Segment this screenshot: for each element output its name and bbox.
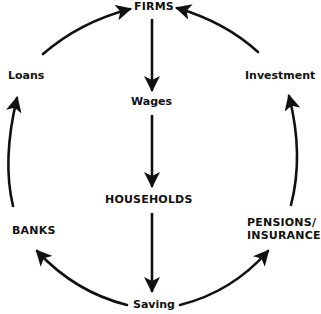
flow-label-loans: Loans — [8, 70, 44, 83]
arrow-pensions-side-to-investment — [289, 96, 297, 205]
arrow-saving-to-banks — [37, 251, 127, 305]
arrow-loans-to-firms — [43, 9, 130, 54]
node-pensions-line2: INSURANCE — [247, 230, 321, 243]
flow-label-investment: Investment — [245, 70, 315, 83]
node-firms: FIRMS — [134, 1, 174, 14]
node-households: HOUSEHOLDS — [105, 194, 193, 207]
node-pensions-insurance: PENSIONS/ INSURANCE — [247, 217, 321, 242]
arrow-investment-to-firms — [177, 8, 258, 52]
node-pensions-line1: PENSIONS/ — [247, 217, 321, 230]
node-banks: BANKS — [12, 225, 56, 238]
flow-label-saving: Saving — [133, 299, 175, 312]
flow-label-wages: Wages — [131, 96, 172, 109]
flow-arrows — [0, 0, 321, 314]
arrow-banks-side-to-loans — [8, 98, 17, 206]
arrow-saving-to-pensions — [180, 251, 268, 305]
